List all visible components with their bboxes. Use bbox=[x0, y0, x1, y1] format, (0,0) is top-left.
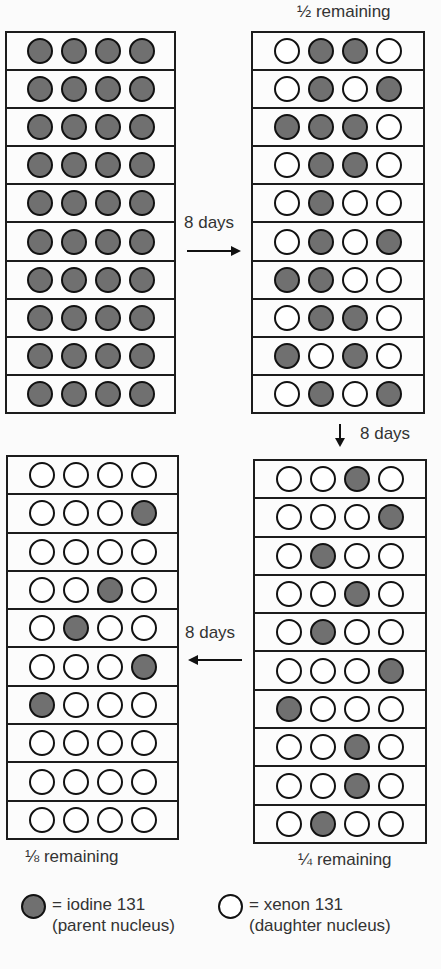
iodine-131-nucleus-icon bbox=[27, 76, 53, 102]
iodine-131-nucleus-icon bbox=[274, 343, 300, 369]
iodine-131-nucleus-icon bbox=[129, 229, 155, 255]
iodine-131-nucleus-icon bbox=[308, 152, 334, 178]
nucleus-row bbox=[8, 687, 177, 725]
iodine-131-nucleus-icon bbox=[61, 305, 87, 331]
xenon-131-nucleus-icon bbox=[344, 504, 370, 530]
xenon-131-nucleus-icon bbox=[310, 734, 336, 760]
xenon-131-nucleus-icon bbox=[310, 773, 336, 799]
iodine-131-nucleus-icon bbox=[129, 76, 155, 102]
xenon-131-nucleus-icon bbox=[344, 658, 370, 684]
nucleus-row bbox=[253, 262, 423, 300]
xenon-131-nucleus-icon bbox=[276, 658, 302, 684]
iodine-131-nucleus-icon bbox=[129, 190, 155, 216]
xenon-131-nucleus-icon bbox=[131, 462, 157, 488]
xenon-131-nucleus-icon bbox=[131, 539, 157, 565]
xenon-131-nucleus-icon bbox=[276, 619, 302, 645]
xenon-131-nucleus-icon bbox=[131, 807, 157, 833]
nucleus-row bbox=[255, 538, 425, 576]
xenon-131-nucleus-icon bbox=[308, 343, 334, 369]
xenon-131-nucleus-icon bbox=[131, 692, 157, 718]
iodine-131-nucleus-icon bbox=[308, 114, 334, 140]
iodine-131-nucleus-icon bbox=[376, 76, 402, 102]
nucleus-row bbox=[8, 725, 177, 763]
iodine-131-nucleus-icon bbox=[63, 615, 89, 641]
iodine-131-nucleus-icon bbox=[27, 343, 53, 369]
xenon-131-nucleus-icon bbox=[274, 381, 300, 407]
xenon-131-nucleus-icon bbox=[29, 769, 55, 795]
xenon-131-nucleus-icon bbox=[310, 504, 336, 530]
legend-parent: = iodine 131 (parent nucleus) bbox=[21, 894, 175, 936]
xenon-131-nucleus-icon bbox=[29, 500, 55, 526]
nucleus-row bbox=[7, 33, 174, 71]
panel-eighth-remaining bbox=[6, 455, 179, 840]
nucleus-row bbox=[8, 763, 177, 801]
iodine-131-nucleus-icon bbox=[95, 190, 121, 216]
nucleus-row bbox=[8, 802, 177, 838]
xenon-131-nucleus-icon bbox=[131, 730, 157, 756]
panel-start bbox=[5, 31, 176, 414]
caption-half-remaining: ½ remaining bbox=[297, 2, 391, 22]
arrow-label-quarter-to-eighth: 8 days bbox=[185, 623, 235, 643]
nucleus-row bbox=[253, 376, 423, 412]
xenon-131-nucleus-icon bbox=[29, 462, 55, 488]
caption-eighth-remaining: ⅛ remaining bbox=[25, 847, 119, 867]
iodine-131-nucleus-icon bbox=[308, 267, 334, 293]
xenon-131-nucleus-icon bbox=[63, 654, 89, 680]
nucleus-row bbox=[253, 223, 423, 261]
panel-quarter-remaining bbox=[253, 459, 427, 844]
xenon-131-nucleus-icon bbox=[97, 462, 123, 488]
xenon-131-nucleus-icon bbox=[276, 773, 302, 799]
iodine-131-nucleus-icon bbox=[95, 381, 121, 407]
nucleus-row bbox=[8, 648, 177, 686]
iodine-131-nucleus-icon bbox=[274, 267, 300, 293]
nucleus-row bbox=[7, 262, 174, 300]
xenon-131-nucleus-icon bbox=[29, 654, 55, 680]
iodine-131-nucleus-icon bbox=[27, 267, 53, 293]
xenon-131-nucleus-icon bbox=[63, 500, 89, 526]
xenon-131-nucleus-icon bbox=[344, 696, 370, 722]
xenon-131-nucleus-icon bbox=[376, 343, 402, 369]
iodine-131-nucleus-icon bbox=[344, 773, 370, 799]
iodine-131-nucleus-icon bbox=[95, 152, 121, 178]
nucleus-row bbox=[253, 338, 423, 376]
iodine-131-nucleus-icon bbox=[310, 543, 336, 569]
xenon-131-nucleus-icon bbox=[63, 577, 89, 603]
iodine-131-nucleus-icon bbox=[95, 343, 121, 369]
nucleus-row bbox=[8, 610, 177, 648]
nucleus-row bbox=[253, 33, 423, 71]
iodine-131-nucleus-icon bbox=[308, 38, 334, 64]
nucleus-row bbox=[255, 576, 425, 614]
nucleus-row bbox=[255, 499, 425, 537]
nucleus-row bbox=[8, 534, 177, 572]
nucleus-row bbox=[253, 300, 423, 338]
xenon-131-nucleus-icon bbox=[274, 38, 300, 64]
xenon-131-nucleus-icon bbox=[97, 539, 123, 565]
xenon-131-nucleus-icon bbox=[63, 462, 89, 488]
iodine-131-nucleus-icon bbox=[95, 267, 121, 293]
xenon-131-nucleus-icon bbox=[97, 730, 123, 756]
xenon-131-nucleus-icon bbox=[276, 466, 302, 492]
xenon-131-nucleus-icon bbox=[29, 730, 55, 756]
iodine-131-nucleus-icon bbox=[276, 696, 302, 722]
arrow-label-start-to-half: 8 days bbox=[184, 213, 234, 233]
legend-daughter: = xenon 131 (daughter nucleus) bbox=[218, 894, 391, 936]
iodine-131-nucleus-icon bbox=[378, 658, 404, 684]
xenon-131-nucleus-icon bbox=[376, 267, 402, 293]
xenon-131-nucleus-icon bbox=[274, 152, 300, 178]
iodine-131-nucleus-icon bbox=[129, 305, 155, 331]
iodine-131-nucleus-icon bbox=[61, 267, 87, 293]
xenon-131-nucleus-icon bbox=[131, 615, 157, 641]
legend-daughter-label: = xenon 131 bbox=[249, 894, 391, 915]
nucleus-row bbox=[253, 147, 423, 185]
xenon-131-nucleus-icon bbox=[378, 734, 404, 760]
xenon-131-nucleus-icon bbox=[342, 190, 368, 216]
iodine-131-nucleus-icon bbox=[95, 229, 121, 255]
iodine-131-nucleus-icon bbox=[61, 343, 87, 369]
xenon-131-nucleus-icon bbox=[276, 543, 302, 569]
xenon-131-nucleus-icon bbox=[378, 543, 404, 569]
xenon-131-nucleus-icon bbox=[63, 807, 89, 833]
nucleus-row bbox=[8, 572, 177, 610]
xenon-131-nucleus-icon bbox=[276, 504, 302, 530]
xenon-131-nucleus-icon bbox=[310, 581, 336, 607]
xenon-131-nucleus-icon bbox=[310, 696, 336, 722]
